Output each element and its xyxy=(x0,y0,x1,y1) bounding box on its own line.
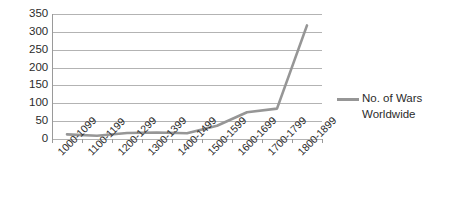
line-chart: 350300250200150100500 1000-10991100-1199… xyxy=(0,0,454,211)
legend-label-line-2: Worldwide xyxy=(362,106,452,122)
legend-swatch-no-of-wars-worldwide xyxy=(337,98,359,101)
legend-label: No. of Wars Worldwide xyxy=(362,90,452,122)
legend-label-line-1: No. of Wars xyxy=(362,90,452,106)
